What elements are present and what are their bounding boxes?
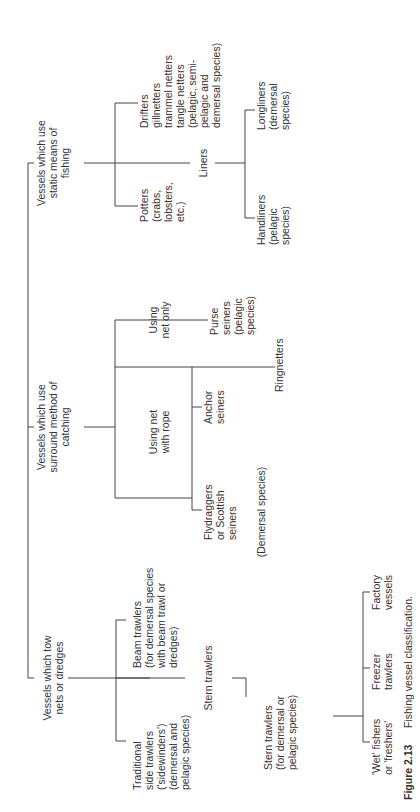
svg-text:species): species) [279,91,291,130]
svg-text:'Wet' fishers: 'Wet' fishers [370,719,382,775]
svg-text:seiners: seiners [226,506,238,540]
node-using-net-only: Using net only [147,301,171,339]
svg-text:Purse: Purse [208,307,220,335]
svg-text:(crabs,: (crabs, [150,190,162,222]
node-flydraggers: Flydraggers or Scottish seiners [202,485,238,540]
svg-text:(Demersal species): (Demersal species) [255,467,267,557]
figure-number: Figure 2.13 [402,744,414,800]
svg-text:Drifters: Drifters [138,94,150,128]
svg-text:Vessels which use: Vessels which use [35,120,47,206]
svg-text:trammel netters: trammel netters [162,55,174,128]
svg-text:(for demersal or: (for demersal or [274,695,286,770]
svg-text:seiners: seiners [214,390,226,424]
svg-text:Vessels which use: Vessels which use [35,384,47,470]
node-stern-trawlers: Stern trawlers [202,646,214,711]
connector-lines [28,103,370,742]
svg-text:net only: net only [159,301,171,339]
svg-text:vessels: vessels [382,575,394,610]
svg-text:catching: catching [59,407,71,446]
svg-text:nets or dredges: nets or dredges [53,642,65,715]
svg-text:gillnetters: gillnetters [150,83,162,128]
svg-text:pelagic species): pelagic species) [286,695,298,770]
node-purse-seiners: Purse seiners (pelagic species) [208,296,256,335]
svg-text:demersal species): demersal species) [210,43,222,128]
fishing-vessel-classification-diagram: Vessels which use static means of fishin… [0,0,420,812]
svg-text:Longliners: Longliners [255,82,267,130]
svg-text:with rope: with rope [159,411,171,455]
node-stern-trawlers-sub: Stern trawlers (for demersal or pelagic … [262,695,298,770]
node-drifters: Drifters gillnetters trammel netters tan… [138,43,222,128]
svg-text:lobsters,: lobsters, [162,182,174,222]
node-demersal-note: (Demersal species) [255,467,267,557]
svg-text:Beam trawlers: Beam trawlers [131,601,143,668]
svg-text:(for demersal species: (for demersal species [143,568,155,668]
svg-text:Potters: Potters [138,189,150,222]
node-handliners: Handliners (pelagic species) [255,195,291,245]
node-liners: Liners [197,149,209,178]
svg-text:Flydraggers: Flydraggers [202,485,214,540]
svg-text:Liners: Liners [197,149,209,178]
svg-text:side trawlers: side trawlers [143,731,155,790]
svg-text:with beam trawl or: with beam trawl or [155,582,167,669]
svg-text:('sidewinders'): ('sidewinders') [155,724,167,790]
node-wet-fishers: 'Wet' fishers or 'freshers' [370,719,394,775]
svg-text:dredges): dredges) [167,627,179,668]
svg-text:(demersal and: (demersal and [167,723,179,790]
svg-text:Vessels which tow: Vessels which tow [41,635,53,721]
svg-text:tangle netters: tangle netters [174,64,186,128]
svg-text:species): species) [279,206,291,245]
svg-text:Using: Using [147,306,159,333]
svg-text:fishing: fishing [59,148,71,179]
figure-caption-text: Fishing vessel classification. [402,596,414,728]
svg-text:(pelagic: (pelagic [267,208,279,245]
node-side-trawlers: Traditional side trawlers ('sidewinders'… [131,715,191,790]
svg-text:Ringnetters: Ringnetters [273,338,285,392]
svg-text:Freezer: Freezer [370,653,382,690]
svg-text:(pelagic, semi-: (pelagic, semi- [186,59,198,128]
node-potters: Potters (crabs, lobsters, etc.) [138,182,186,222]
svg-text:species): species) [244,296,256,335]
svg-text:static means of: static means of [47,128,59,199]
svg-text:Anchor: Anchor [202,390,214,424]
svg-text:Stern trawlers: Stern trawlers [202,646,214,711]
figure-caption: Figure 2.13 Fishing vessel classificatio… [402,596,414,800]
svg-text:or 'freshers': or 'freshers' [382,721,394,775]
svg-text:Stern trawlers: Stern trawlers [262,705,274,770]
svg-text:Handliners: Handliners [255,195,267,245]
category-static: Vessels which use static means of fishin… [35,120,71,206]
svg-text:seiners: seiners [220,301,232,335]
node-using-net-with-rope: Using net with rope [147,410,171,455]
node-freezer-trawlers: Freezer trawlers [370,653,394,690]
diagram-canvas: Vessels which use static means of fishin… [0,0,420,812]
svg-text:Traditional: Traditional [131,741,143,790]
node-ringnetters: Ringnetters [273,338,285,392]
svg-text:Using net: Using net [147,410,159,454]
svg-text:(demersal: (demersal [267,83,279,130]
node-factory-vessels: Factory vessels [370,574,394,610]
category-surround: Vessels which use surround method of cat… [35,381,71,472]
svg-text:pelagic species): pelagic species) [179,715,191,790]
svg-text:pelagic and: pelagic and [198,74,210,128]
node-anchor-seiners: Anchor seiners [202,390,226,424]
svg-text:trawlers: trawlers [382,653,394,690]
svg-text:Factory: Factory [370,574,382,610]
svg-text:etc.): etc.) [174,202,186,222]
category-tow: Vessels which tow nets or dredges [41,635,65,721]
node-beam-trawlers: Beam trawlers (for demersal species with… [131,568,179,669]
node-longliners: Longliners (demersal species) [255,82,291,130]
svg-text:or Scottish: or Scottish [214,490,226,540]
svg-text:surround method of: surround method of [47,381,59,472]
svg-text:(pelagic: (pelagic [232,298,244,335]
